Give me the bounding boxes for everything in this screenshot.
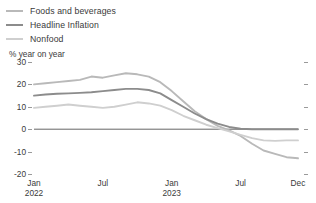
series-line-nonfood bbox=[34, 102, 298, 141]
y-axis-tick-mark bbox=[28, 84, 32, 85]
y-axis-right-tick-mark bbox=[304, 174, 308, 175]
y-axis-tick-mark bbox=[28, 107, 32, 108]
legend-item-nonfood: Nonfood bbox=[6, 32, 116, 46]
x-tick-year: 2023 bbox=[152, 188, 192, 198]
legend-swatch-headline-inflation bbox=[6, 24, 23, 26]
x-axis-tick-label: Jul bbox=[83, 178, 123, 188]
y-axis-right-tick-mark bbox=[304, 129, 308, 130]
x-tick-year: 2022 bbox=[14, 188, 54, 198]
chart-legend: Foods and beverages Headline Inflation N… bbox=[6, 4, 116, 46]
x-axis-tick-label: Jan2022 bbox=[14, 178, 54, 198]
series-lines bbox=[34, 62, 298, 174]
legend-label-nonfood: Nonfood bbox=[30, 35, 64, 44]
y-axis-tick-label: 20 bbox=[0, 79, 26, 89]
y-axis-tick-mark bbox=[28, 152, 32, 153]
y-axis-right-tick-mark bbox=[304, 84, 308, 85]
y-axis-tick-mark bbox=[28, 174, 32, 175]
legend-item-headline-inflation: Headline Inflation bbox=[6, 18, 116, 32]
y-axis-tick-label: 0 bbox=[0, 124, 26, 134]
x-tick-month: Dec bbox=[291, 178, 306, 188]
x-axis-tick-label: Dec bbox=[278, 178, 316, 188]
x-tick-month: Jan bbox=[27, 178, 40, 188]
legend-swatch-foods-and-beverages bbox=[6, 10, 23, 12]
y-axis-tick-mark bbox=[28, 129, 32, 130]
legend-swatch-nonfood bbox=[6, 38, 23, 40]
x-axis-tick-label: Jul bbox=[221, 178, 261, 188]
y-axis-right-tick-mark bbox=[304, 62, 308, 63]
y-axis-right-tick-mark bbox=[304, 107, 308, 108]
legend-item-foods-and-beverages: Foods and beverages bbox=[6, 4, 116, 18]
series-line-foods-and-beverages bbox=[34, 73, 298, 158]
y-axis-right-tick-mark bbox=[304, 152, 308, 153]
legend-label-headline-inflation: Headline Inflation bbox=[30, 21, 99, 30]
x-tick-month: Jan bbox=[165, 178, 178, 188]
plot-area bbox=[34, 62, 298, 174]
series-line-headline-inflation bbox=[34, 89, 298, 129]
x-axis-tick-label: Jan2023 bbox=[152, 178, 192, 198]
x-tick-month: Jul bbox=[98, 178, 109, 188]
inflation-line-chart: Foods and beverages Headline Inflation N… bbox=[0, 0, 316, 203]
y-axis-tick-label: -10 bbox=[0, 147, 26, 157]
y-axis-tick-label: 30 bbox=[0, 57, 26, 67]
y-axis-tick-mark bbox=[28, 62, 32, 63]
x-tick-month: Jul bbox=[235, 178, 246, 188]
legend-label-foods-and-beverages: Foods and beverages bbox=[30, 7, 116, 16]
y-axis-tick-label: 10 bbox=[0, 102, 26, 112]
